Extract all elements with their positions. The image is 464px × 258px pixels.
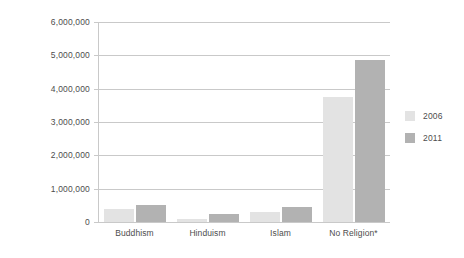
- bar-hinduism-2011: [209, 214, 239, 222]
- x-axis-label-islam: Islam: [244, 228, 317, 238]
- legend-item-2006[interactable]: 2006: [405, 105, 464, 127]
- gridline: [98, 89, 390, 90]
- bar-hinduism-2006: [177, 219, 207, 222]
- x-axis-label-hinduism: Hinduism: [171, 228, 244, 238]
- bar-buddhism-2011: [136, 205, 166, 222]
- bar-islam-2006: [250, 212, 280, 222]
- y-axis-tick-mark: [94, 155, 98, 156]
- y-axis-tick-mark: [94, 55, 98, 56]
- y-axis-tick-mark: [94, 122, 98, 123]
- bar-noreligion-2006: [323, 97, 353, 222]
- y-axis-tick-labels: 01,000,0002,000,0003,000,0004,000,0005,0…: [34, 16, 94, 224]
- x-axis-label-noreligion: No Religion*: [317, 228, 390, 238]
- x-axis-category-labels: BuddhismHinduismIslamNo Religion*: [98, 228, 390, 244]
- y-axis-tick-label: 0: [85, 218, 90, 227]
- bar-buddhism-2006: [104, 209, 134, 222]
- legend-swatch-2011: [405, 133, 415, 143]
- bar-chart: Number of adherents 01,000,0002,000,0003…: [0, 0, 464, 258]
- y-axis-tick-label: 6,000,000: [51, 18, 90, 27]
- legend-swatch-2006: [405, 111, 415, 121]
- gridline: [98, 222, 390, 223]
- y-axis-tick-label: 5,000,000: [51, 51, 90, 60]
- y-axis-tick-label: 4,000,000: [51, 85, 90, 94]
- legend-label-2011: 2011: [423, 133, 442, 143]
- y-axis-tick-mark: [94, 189, 98, 190]
- plot-area: [98, 22, 390, 222]
- y-axis-tick-mark: [94, 222, 98, 223]
- y-axis-tick-label: 3,000,000: [51, 118, 90, 127]
- chart-legend: 20062011: [405, 105, 464, 149]
- y-axis-tick-mark: [94, 89, 98, 90]
- bar-noreligion-2011: [355, 60, 385, 222]
- bar-islam-2011: [282, 207, 312, 222]
- x-axis-label-buddhism: Buddhism: [98, 228, 171, 238]
- y-axis-tick-label: 1,000,000: [51, 185, 90, 194]
- y-axis-tick-label: 2,000,000: [51, 151, 90, 160]
- y-axis-tick-mark: [94, 22, 98, 23]
- gridline: [98, 55, 390, 56]
- legend-label-2006: 2006: [423, 111, 443, 121]
- legend-item-2011[interactable]: 2011: [405, 127, 464, 149]
- gridline: [98, 22, 390, 23]
